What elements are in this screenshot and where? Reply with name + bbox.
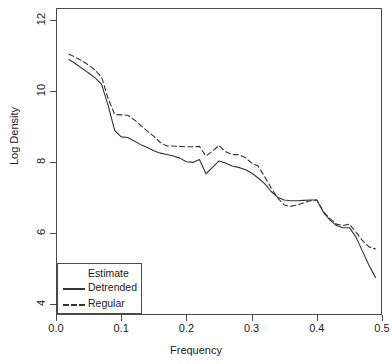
x-tick-label: 0.4 [297, 322, 337, 334]
x-axis-title: Frequency [0, 344, 392, 356]
y-tick-label: 4 [35, 292, 47, 314]
series-line-detrended [69, 59, 375, 277]
legend-entry-regular: Regular [58, 297, 143, 313]
y-tick-label: 6 [35, 221, 47, 243]
y-tick-label: 12 [35, 8, 47, 30]
legend-key-dashed [63, 304, 85, 306]
legend: Estimate Detrended Regular [57, 263, 142, 314]
x-tick-mark [252, 315, 253, 321]
y-tick-label: 8 [35, 150, 47, 172]
x-tick-mark [317, 315, 318, 321]
x-tick-mark [186, 315, 187, 321]
x-tick-label: 0.0 [36, 322, 76, 334]
y-axis-title: Log Density [8, 90, 20, 182]
y-tick-label: 10 [35, 79, 47, 101]
x-tick-mark [56, 315, 57, 321]
x-tick-mark [382, 315, 383, 321]
x-tick-label: 0.2 [166, 322, 206, 334]
legend-entry-detrended: Detrended [58, 281, 143, 297]
x-tick-label: 0.5 [362, 322, 392, 334]
log-density-periodogram-chart: 4681012 0.00.10.20.30.40.5 Frequency Log… [0, 0, 392, 364]
x-tick-label: 0.3 [232, 322, 272, 334]
legend-label-regular: Regular [88, 297, 125, 309]
legend-label-detrended: Detrended [88, 281, 137, 293]
x-tick-label: 0.1 [101, 322, 141, 334]
legend-key-solid [63, 288, 85, 290]
x-tick-mark [121, 315, 122, 321]
legend-title: Estimate [88, 267, 129, 279]
